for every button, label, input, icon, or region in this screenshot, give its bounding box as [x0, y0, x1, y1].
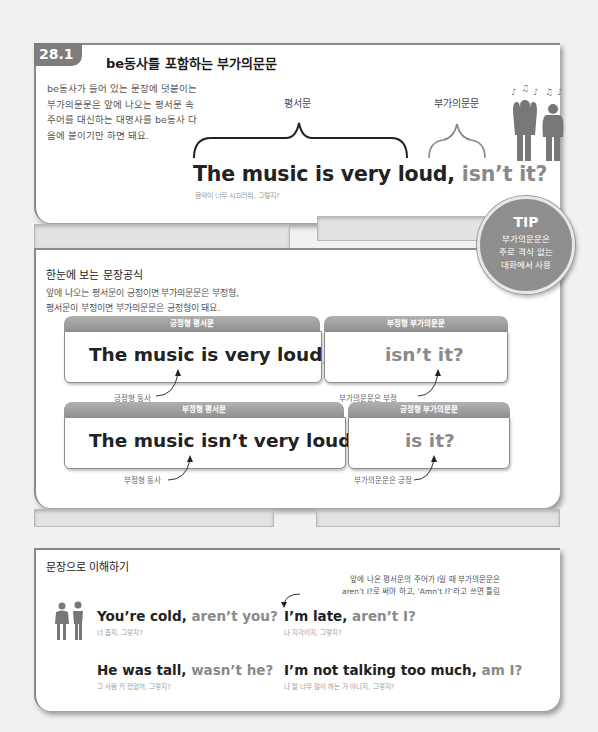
example-sentence: You’re cold, aren’t you? — [97, 608, 278, 624]
tip-line-2: 주로 격식 없는 — [480, 246, 572, 259]
connector-bar-left — [34, 509, 274, 527]
section-28-1-card: 28.1 be동사를 포함하는 부가의문문 be동사가 들어 있는 문장에 덧붙… — [34, 43, 560, 223]
tip-circle: TIP 부가의문문은 주로 격식 없는 대화에서 사용 — [477, 196, 575, 294]
note-amn-t-i: 앞에 나온 평서문의 주어가 I일 때 부가의문문은 aren’t I?로 써야… — [342, 574, 500, 598]
examples-title: 문장으로 이해하기 — [46, 558, 130, 574]
formula-desc-line-2: 평서문이 부정이면 부가의문문은 긍정형이 돼요. — [46, 301, 239, 316]
puzzle-statement-text: The music is very loud, — [89, 344, 330, 365]
annotation-tag-positive: 부가의문문은 긍정 — [354, 474, 412, 485]
people-covering-ears-music-icon: ♪♫ ♪♫♪ — [509, 85, 569, 165]
section-title: be동사를 포함하는 부가의문문 — [106, 53, 277, 72]
arrow-icon — [412, 454, 452, 482]
section-number-badge: 28.1 — [34, 43, 82, 66]
formula-title: 한눈에 보는 문장공식 — [46, 266, 143, 282]
example-translation: 너 춥지, 그렇지? — [97, 627, 143, 637]
connector-bar-left — [34, 224, 290, 249]
intro-text: be동사가 들어 있는 문장에 덧붙이는 부가의문문은 앞에 나오는 평서문 속… — [47, 81, 197, 143]
example-sentence: I’m not talking too much, am I? — [284, 662, 522, 678]
annotation-negative-verb: 부정형 동사 — [124, 474, 161, 485]
note-line-1: 앞에 나온 평서문의 주어가 I일 때 부가의문문은 — [342, 574, 500, 586]
svg-text:♪: ♪ — [533, 87, 539, 97]
puzzle-statement-text: The music isn’t very loud, — [89, 430, 359, 451]
statement-part: I’m late, — [284, 608, 347, 624]
statement-part: I’m not talking too much, — [284, 662, 477, 678]
tip-body: 부가의문문은 주로 격식 없는 대화에서 사용 — [480, 233, 572, 272]
tab-positive-statement: 긍정형 평서문 — [64, 316, 320, 331]
brace-icon — [191, 108, 511, 160]
statement-part: You’re cold, — [97, 608, 187, 624]
svg-text:♫: ♫ — [521, 85, 529, 93]
example-translation: 그 사람 키 컸었어, 그렇지? — [97, 681, 171, 691]
svg-text:♪: ♪ — [511, 87, 517, 97]
puzzle-tag-text: isn’t it? — [385, 344, 464, 365]
tag-question-part: aren’t you? — [191, 608, 277, 624]
examples-card: 문장으로 이해하기 앞에 나온 평서문의 주어가 I일 때 부가의문문은 are… — [34, 548, 560, 711]
svg-text:♪: ♪ — [557, 87, 563, 97]
statement-part: He was tall, — [97, 662, 186, 678]
arrow-icon — [154, 368, 194, 398]
connector-bar-right — [317, 216, 497, 241]
arrow-icon — [166, 454, 206, 482]
formula-desc: 앞에 나오는 평서문이 긍정이면 부가의문문은 부정형, 평서문이 부정이면 부… — [46, 286, 239, 316]
tip-line-3: 대화에서 사용 — [480, 259, 572, 272]
puzzle-tag-text: is it? — [405, 430, 455, 451]
note-line-2: aren’t I?로 써야 하고, ‘Amn’t I?’라고 쓰면 틀림 — [342, 586, 500, 598]
tag-question-part: am I? — [482, 662, 523, 678]
tag-question-part: isn’t it? — [462, 162, 547, 186]
example-translation: 나 지각이지, 그렇지? — [284, 627, 342, 637]
statement-part: The music is very loud, — [193, 162, 455, 186]
translation: 음악이 너무 시끄러워, 그렇지? — [195, 190, 280, 200]
example-sentence: The music is very loud, isn’t it? — [193, 162, 547, 186]
example-sentence: He was tall, wasn’t he? — [97, 662, 273, 678]
formula-card: 한눈에 보는 문장공식 앞에 나오는 평서문이 긍정이면 부가의문문은 부정형,… — [34, 248, 560, 508]
tip-line-1: 부가의문문은 — [480, 233, 572, 246]
tag-question-part: wasn’t he? — [191, 662, 273, 678]
formula-desc-line-1: 앞에 나오는 평서문이 긍정이면 부가의문문은 부정형, — [46, 286, 239, 301]
example-translation: 나 말 너무 많이 하는 거 아니지, 그렇지? — [284, 681, 394, 691]
example-sentence: I’m late, aren’t I? — [284, 608, 416, 624]
tip-title: TIP — [480, 214, 572, 230]
connector-bar-right — [316, 509, 560, 527]
tab-negative-statement: 부정형 평서문 — [64, 402, 344, 417]
svg-text:♫: ♫ — [545, 87, 553, 97]
tab-positive-tag: 긍정형 부가의문문 — [348, 402, 510, 417]
arrow-icon — [416, 368, 456, 398]
arrow-icon — [278, 592, 302, 608]
tag-question-part: aren’t I? — [352, 608, 416, 624]
shivering-couple-icon — [53, 600, 87, 642]
tab-negative-tag: 부정형 부가의문문 — [324, 316, 508, 331]
